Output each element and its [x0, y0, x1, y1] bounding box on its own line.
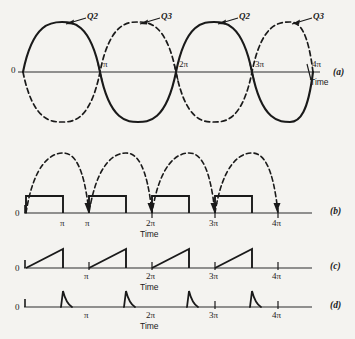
panel-b-tick-pi-2: π — [85, 219, 90, 228]
panel-b-tick-3pi: 3π — [209, 219, 218, 228]
panel-a-letter: (a) — [333, 68, 344, 78]
panel-a — [18, 18, 320, 122]
panel-a-tick-pi: π — [103, 60, 108, 69]
panel-d-tick-2pi: 2π — [146, 311, 155, 320]
panel-a-label-q3-1: Q3 — [161, 12, 172, 21]
panel-d-tick-4pi: 4π — [272, 311, 281, 320]
waveform-figure — [0, 0, 355, 339]
panel-c-letter: (c) — [330, 262, 341, 272]
panel-b-tick-pi-1: π — [60, 219, 65, 228]
panel-b-zero-label: 0 — [15, 209, 20, 218]
panel-a-tick-2pi: 2π — [179, 60, 188, 69]
panel-a-tick-3pi: 3π — [255, 60, 264, 69]
panel-c-zero-label: 0 — [15, 264, 20, 273]
panel-d-spike-1 — [61, 291, 72, 307]
panel-c-sawtooth — [26, 249, 252, 268]
panel-b-letter: (b) — [330, 207, 341, 217]
panel-d-zero-label: 0 — [15, 303, 20, 312]
panel-d-tick-3pi: 3π — [209, 311, 218, 320]
panel-b-tick-2pi: 2π — [146, 219, 155, 228]
panel-a-label-q3-2: Q3 — [313, 12, 324, 21]
panel-a-leaders — [66, 18, 312, 24]
panel-d — [24, 291, 312, 309]
panel-b-time-label: Time — [140, 230, 159, 239]
panel-c — [24, 249, 312, 270]
panel-a-tick-4pi: 4π — [312, 60, 321, 69]
panel-a-arrowheads — [66, 20, 300, 25]
panel-d-spike-2 — [124, 291, 135, 307]
panel-d-time-label: Time — [140, 322, 159, 331]
panel-b — [24, 153, 312, 218]
panel-c-tick-2pi: 2π — [146, 272, 155, 281]
panel-a-label-q2-2: Q2 — [239, 12, 250, 21]
panel-a-label-q2-1: Q2 — [87, 12, 98, 21]
panel-c-tick-pi: π — [84, 272, 89, 281]
panel-c-time-label: Time — [140, 283, 159, 292]
panel-c-tick-4pi: 4π — [272, 272, 281, 281]
panel-b-tick-4pi: 4π — [272, 219, 281, 228]
panel-a-time-label: Time — [310, 78, 329, 87]
panel-d-spike-4 — [250, 291, 261, 307]
panel-c-tick-3pi: 3π — [209, 272, 218, 281]
panel-d-letter: (d) — [330, 301, 341, 311]
panel-a-zero-label: 0 — [11, 66, 16, 75]
panel-d-spike-3 — [187, 291, 198, 307]
panel-d-tick-pi: π — [84, 311, 89, 320]
